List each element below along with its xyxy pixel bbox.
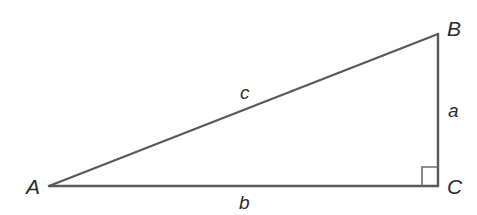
side-label-a: a [448,100,459,121]
vertex-label-c: C [447,175,463,198]
triangle-canvas: A B C c a b [0,0,477,215]
vertex-label-a: A [24,175,40,198]
vertex-label-b: B [447,17,461,40]
side-label-c: c [240,82,250,103]
side-c-line [49,34,438,186]
right-angle-marker [422,167,438,186]
side-label-b: b [239,192,250,213]
right-triangle-diagram: A B C c a b [0,0,477,215]
